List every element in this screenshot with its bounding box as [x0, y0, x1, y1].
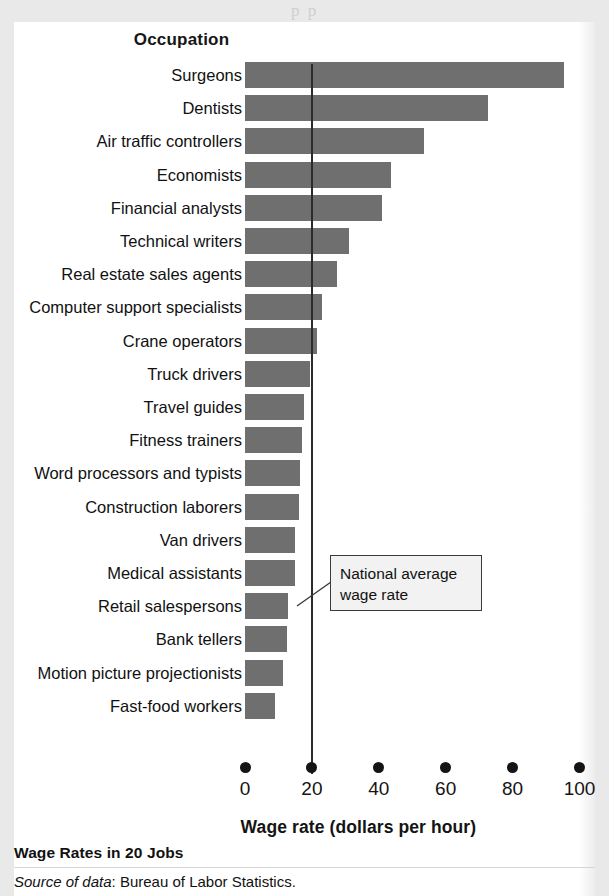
bar — [245, 693, 275, 719]
bar — [245, 128, 424, 154]
x-axis: 020406080100 — [14, 762, 595, 822]
national-average-reference-line — [311, 64, 313, 774]
bar-category-label: Word processors and typists — [0, 462, 242, 484]
bar-category-label: Van drivers — [0, 529, 242, 551]
bar — [245, 261, 337, 287]
bar-category-label: Surgeons — [0, 64, 242, 86]
bar-category-label: Travel guides — [0, 396, 242, 418]
bar — [245, 162, 391, 188]
x-axis-tick-label: 60 — [416, 778, 476, 800]
bar — [245, 660, 283, 686]
bar — [245, 228, 349, 254]
bar-row: Surgeons — [14, 62, 595, 88]
bar-row: Economists — [14, 162, 595, 188]
bar — [245, 95, 488, 121]
national-average-callout: National average wage rate — [330, 555, 482, 611]
bar-row: Travel guides — [14, 394, 595, 420]
bar — [245, 62, 564, 88]
bar-category-label: Construction laborers — [0, 496, 242, 518]
bar-row: Van drivers — [14, 527, 595, 553]
x-axis-tick-dot — [507, 762, 518, 773]
bar — [245, 394, 304, 420]
bar-category-label: Economists — [0, 164, 242, 186]
bar — [245, 460, 300, 486]
figure-card: Occupation SurgeonsDentistsAir traffic c… — [14, 22, 595, 896]
source-text: : Bureau of Labor Statistics. — [112, 873, 296, 890]
bar-category-label: Motion picture projectionists — [0, 662, 242, 684]
bar-chart-plot-area: SurgeonsDentistsAir traffic controllersE… — [14, 62, 595, 752]
source-label: Source of data — [14, 873, 112, 890]
x-axis-tick-dot — [373, 762, 384, 773]
bar — [245, 494, 299, 520]
bar — [245, 560, 295, 586]
bar-row: Word processors and typists — [14, 460, 595, 486]
bar-row: Air traffic controllers — [14, 128, 595, 154]
bar-row: Financial analysts — [14, 195, 595, 221]
bar-row: Crane operators — [14, 328, 595, 354]
bar-category-label: Computer support specialists — [0, 296, 242, 318]
footer-divider — [14, 867, 595, 868]
x-axis-tick-label: 80 — [483, 778, 543, 800]
bar-category-label: Truck drivers — [0, 363, 242, 385]
bar-category-label: Crane operators — [0, 330, 242, 352]
bar-row: Motion picture projectionists — [14, 660, 595, 686]
callout-text: National average wage rate — [340, 563, 480, 605]
bar — [245, 527, 295, 553]
bar-row: Construction laborers — [14, 494, 595, 520]
x-axis-tick-dot — [574, 762, 585, 773]
bar-row: Technical writers — [14, 228, 595, 254]
bar — [245, 328, 317, 354]
bar-category-label: Financial analysts — [0, 197, 242, 219]
bar-category-label: Bank tellers — [0, 628, 242, 650]
page-bleed-text: p p — [0, 0, 609, 22]
bar — [245, 593, 288, 619]
bar-category-label: Air traffic controllers — [0, 130, 242, 152]
bar-row: Fast-food workers — [14, 693, 595, 719]
bar-category-label: Real estate sales agents — [0, 263, 242, 285]
bar — [245, 626, 287, 652]
bar — [245, 195, 382, 221]
bar-category-label: Dentists — [0, 97, 242, 119]
bar-row: Truck drivers — [14, 361, 595, 387]
bar-row: Real estate sales agents — [14, 261, 595, 287]
bar-row: Fitness trainers — [14, 427, 595, 453]
bar — [245, 361, 310, 387]
x-axis-tick-dot — [306, 762, 317, 773]
bar-category-label: Medical assistants — [0, 562, 242, 584]
bar-row: Dentists — [14, 95, 595, 121]
bar — [245, 427, 302, 453]
bar-category-label: Fast-food workers — [0, 695, 242, 717]
bar-category-label: Fitness trainers — [0, 429, 242, 451]
bar-row: Bank tellers — [14, 626, 595, 652]
x-axis-tick-dot — [440, 762, 451, 773]
x-axis-tick-dot — [240, 762, 251, 773]
x-axis-tick-label: 20 — [282, 778, 342, 800]
bar-category-label: Technical writers — [0, 230, 242, 252]
x-axis-title-text: Wage rate (dollars per hour) — [241, 817, 477, 838]
x-axis-tick-label: 100 — [550, 778, 609, 800]
bar-category-label: Retail salespersons — [0, 595, 242, 617]
column-header-occupation: Occupation — [14, 30, 349, 50]
x-axis-title: Wage rate (dollars per hour) — [14, 817, 595, 838]
x-axis-tick-label: 40 — [349, 778, 409, 800]
figure-title: Wage Rates in 20 Jobs — [14, 844, 184, 862]
bar-row: Computer support specialists — [14, 294, 595, 320]
callout-leader-line — [297, 582, 331, 606]
source-note: Source of data: Bureau of Labor Statisti… — [14, 873, 296, 890]
x-axis-tick-label: 0 — [215, 778, 275, 800]
